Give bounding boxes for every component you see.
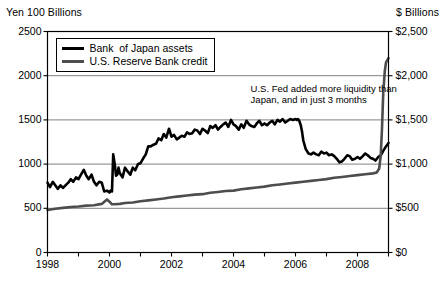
- left-axis-tick-label: 500: [24, 202, 42, 213]
- x-axis-tick-label: 2002: [147, 259, 197, 270]
- left-axis-tick-label: 1500: [18, 114, 41, 125]
- fed-liquidity-note: U.S. Fed added more liquidity than Japan…: [251, 83, 397, 106]
- left-axis-tick-label: 1000: [18, 158, 41, 169]
- series-layer: [48, 58, 389, 210]
- right-axis-tick-label: $2,000: [396, 70, 428, 81]
- right-axis-tick-label: $500: [396, 202, 419, 213]
- left-axis-tick-label: 2500: [18, 26, 41, 37]
- x-axis-tick-label: 1998: [23, 259, 73, 270]
- left-axis-tick-label: 2000: [18, 70, 41, 81]
- x-axis-tick-label: 2008: [333, 259, 383, 270]
- legend-swatch-icon: [62, 47, 84, 50]
- left-axis-title: Yen 100 Billions: [6, 6, 82, 18]
- x-axis-tick-label: 2000: [85, 259, 135, 270]
- series-line-1: [48, 119, 389, 192]
- legend-label: Bank of Japan assets: [90, 42, 193, 54]
- right-axis-tick-label: $0: [396, 247, 408, 258]
- left-axis-tick-label: 0: [36, 247, 42, 258]
- legend-item: Bank of Japan assets: [62, 42, 208, 55]
- legend-item: U.S. Reserve Bank credit: [62, 55, 208, 68]
- x-axis-tick-label: 2004: [209, 259, 259, 270]
- right-axis-tick-label: $1,000: [396, 158, 428, 169]
- chart-legend: Bank of Japan assetsU.S. Reserve Bank cr…: [56, 38, 216, 72]
- right-axis-tick-label: $1,500: [396, 114, 428, 125]
- right-axis-title: $ Billions: [396, 6, 439, 18]
- x-axis-tick-label: 2006: [271, 259, 321, 270]
- series-line-2: [48, 58, 389, 210]
- right-axis-tick-label: $2,500: [396, 26, 428, 37]
- chart-container: Yen 100 Billions $ Billions 050010001500…: [0, 0, 445, 286]
- legend-label: U.S. Reserve Bank credit: [90, 55, 208, 67]
- legend-swatch-icon: [62, 60, 84, 63]
